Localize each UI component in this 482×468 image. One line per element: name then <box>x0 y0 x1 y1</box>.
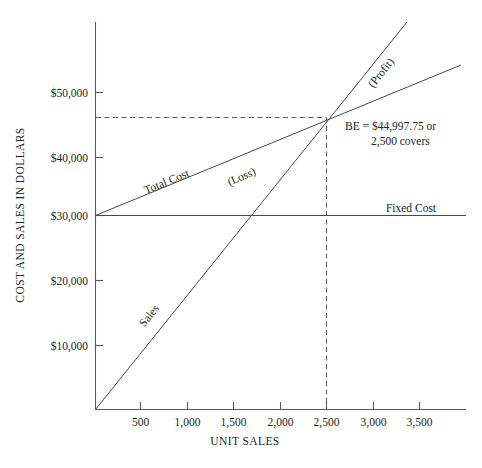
y-tick-label-50000: $50,000 <box>51 87 89 100</box>
breakeven-annotation-line2: 2,500 covers <box>371 135 430 148</box>
x-tick-label-2000: 2,000 <box>268 416 294 429</box>
y-tick-label-10000: $10,000 <box>51 340 89 353</box>
y-axis-title: COST AND SALES IN DOLLARS <box>14 127 26 302</box>
x-tick-label-3500: 3,500 <box>407 416 433 429</box>
fixed-cost-label: Fixed Cost <box>386 202 437 214</box>
breakeven-annotation: BE = $44,997.75 or 2,500 covers <box>345 120 436 148</box>
loss-region-label: (Loss) <box>226 165 258 188</box>
x-tick-label-3000: 3,000 <box>361 416 387 429</box>
breakeven-annotation-line1: BE = $44,997.75 or <box>345 120 436 133</box>
profit-region-label: (Profit) <box>366 55 398 90</box>
y-tick-label-20000: $20,000 <box>51 275 89 288</box>
total-cost-label: Total Cost <box>142 166 191 196</box>
y-axis-tick-labels: $50,000 $40,000 $30,000 $20,000 $10,000 <box>51 87 89 353</box>
x-tick-label-2500: 2,500 <box>314 416 340 429</box>
sales-label: Sales <box>137 302 162 329</box>
y-tick-label-40000: $40,000 <box>51 152 89 165</box>
x-tick-label-500: 500 <box>132 416 150 428</box>
y-tick-label-30000: $30,000 <box>51 210 89 223</box>
x-tick-label-1500: 1,500 <box>221 416 247 429</box>
y-axis-ticks <box>96 93 104 346</box>
x-axis-ticks <box>141 402 420 410</box>
x-tick-label-1000: 1,000 <box>175 416 201 429</box>
x-axis-title: UNIT SALES <box>210 435 279 447</box>
chart-canvas: $50,000 $40,000 $30,000 $20,000 $10,000 … <box>0 0 482 468</box>
x-axis-tick-labels: 500 1,000 1,500 2,000 2,500 3,000 3,500 <box>132 416 433 429</box>
breakeven-chart: $50,000 $40,000 $30,000 $20,000 $10,000 … <box>0 0 482 468</box>
